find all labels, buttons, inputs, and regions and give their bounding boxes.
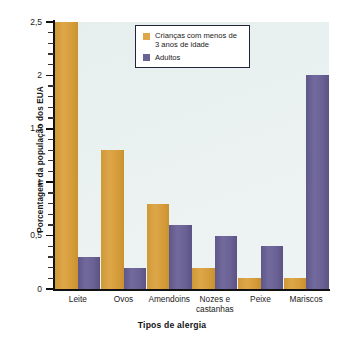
y-axis-minor-tick bbox=[48, 203, 54, 204]
x-axis-tick-label: Ovos bbox=[101, 294, 147, 304]
y-axis-minor-tick bbox=[48, 267, 54, 268]
y-axis-minor-tick bbox=[48, 85, 54, 86]
bar-kids-peixe bbox=[238, 278, 261, 289]
y-axis-minor-tick bbox=[48, 246, 54, 247]
y-axis-minor-tick bbox=[48, 32, 54, 33]
x-axis-tick-label-line: Leite bbox=[55, 294, 101, 304]
y-axis-major-tick bbox=[46, 128, 54, 130]
y-axis-tick-label: 2,5 bbox=[8, 17, 42, 27]
y-axis-minor-tick bbox=[48, 64, 54, 65]
y-axis-tick-label: 0,5 bbox=[8, 230, 42, 240]
y-axis-major-tick bbox=[46, 21, 54, 23]
legend-label-adults: Adultos bbox=[155, 53, 180, 62]
x-axis-tick-label-line: Mariscos bbox=[283, 294, 329, 304]
x-axis-tick-label-line: Amendoins bbox=[146, 294, 192, 304]
bar-adults-ovos bbox=[124, 268, 147, 289]
x-axis-tick-label: Nozes ecastanhas bbox=[192, 294, 238, 314]
x-axis-tick-label-line: Peixe bbox=[238, 294, 284, 304]
bar-adults-amendoins bbox=[169, 225, 192, 289]
x-axis-tick-label: Amendoins bbox=[146, 294, 192, 304]
bar-adults-peixe bbox=[261, 246, 284, 289]
bar-kids-nozes-e-castanhas bbox=[192, 268, 215, 289]
y-axis-minor-tick bbox=[48, 171, 54, 172]
y-axis-minor-tick bbox=[48, 117, 54, 118]
y-axis-major-tick bbox=[46, 181, 54, 183]
bar-adults-leite bbox=[78, 257, 101, 289]
legend-swatch-kids-icon bbox=[143, 33, 150, 40]
y-axis-tick-label: 0 bbox=[8, 284, 42, 294]
legend-label-adults-line1: Adultos bbox=[155, 53, 180, 62]
bar-kids-ovos bbox=[101, 150, 124, 289]
x-axis-title: Tipos de alergia bbox=[0, 320, 344, 330]
y-axis-minor-tick bbox=[48, 214, 54, 215]
y-axis-minor-tick bbox=[48, 150, 54, 151]
x-axis-tick-label: Mariscos bbox=[283, 294, 329, 304]
bar-kids-leite bbox=[55, 22, 78, 289]
chart-figure: Porcentagem da população dos EUA 00,511,… bbox=[0, 0, 344, 337]
y-axis-minor-tick bbox=[48, 43, 54, 44]
chart-legend: Crianças com menos de 3 anos de idade Ad… bbox=[135, 25, 250, 68]
x-axis-tick-label-line: castanhas bbox=[192, 304, 238, 314]
x-axis-tick-label-line: Ovos bbox=[101, 294, 147, 304]
y-axis-major-tick bbox=[46, 235, 54, 237]
legend-label-kids-line1: Crianças com menos bbox=[155, 31, 226, 40]
y-axis-minor-tick bbox=[48, 139, 54, 140]
y-axis-minor-tick bbox=[48, 192, 54, 193]
x-axis-line bbox=[53, 289, 330, 291]
y-axis-minor-tick bbox=[48, 224, 54, 225]
bar-adults-mariscos bbox=[306, 75, 329, 289]
y-axis-major-tick bbox=[46, 288, 54, 290]
y-axis-minor-tick bbox=[48, 256, 54, 257]
legend-label-kids: Crianças com menos de 3 anos de idade bbox=[155, 31, 243, 50]
y-axis-minor-tick bbox=[48, 278, 54, 279]
x-axis-tick-label: Leite bbox=[55, 294, 101, 304]
y-axis-minor-tick bbox=[48, 160, 54, 161]
legend-item-adults: Adultos bbox=[143, 53, 243, 62]
y-axis-tick-label: 1 bbox=[8, 177, 42, 187]
x-axis-tick-label-line: Nozes e bbox=[192, 294, 238, 304]
bar-kids-amendoins bbox=[147, 204, 170, 289]
y-axis-tick-label: 1,5 bbox=[8, 123, 42, 133]
legend-item-kids: Crianças com menos de 3 anos de idade bbox=[143, 31, 243, 50]
y-axis-minor-tick bbox=[48, 107, 54, 108]
y-axis-minor-tick bbox=[48, 53, 54, 54]
y-axis-major-tick bbox=[46, 75, 54, 77]
bar-adults-nozes-e-castanhas bbox=[215, 236, 238, 289]
y-axis-minor-tick bbox=[48, 96, 54, 97]
x-axis-tick-label: Peixe bbox=[238, 294, 284, 304]
y-axis-tick-label: 2 bbox=[8, 70, 42, 80]
legend-swatch-adults-icon bbox=[143, 54, 150, 61]
bar-kids-mariscos bbox=[284, 278, 307, 289]
